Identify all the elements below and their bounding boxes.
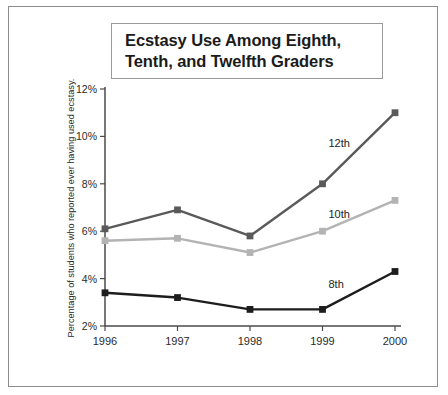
- chart-frame: Ecstasy Use Among Eighth, Tenth, and Twe…: [8, 6, 438, 387]
- x-tick-label: 1999: [310, 335, 334, 347]
- data-point-12th: [247, 233, 254, 240]
- data-point-10th: [102, 237, 109, 244]
- data-point-12th: [392, 109, 399, 116]
- chart-title-box: Ecstasy Use Among Eighth, Tenth, and Twe…: [111, 23, 383, 79]
- data-point-10th: [392, 197, 399, 204]
- x-tick-label: 1998: [238, 335, 262, 347]
- chart-title-line-1: Ecstasy Use Among Eighth,: [125, 30, 341, 51]
- y-tick-label: 10%: [76, 130, 97, 142]
- data-point-8th: [174, 294, 181, 301]
- data-point-10th: [247, 249, 254, 256]
- data-point-10th: [174, 235, 181, 242]
- data-point-8th: [247, 306, 254, 313]
- y-tick-label: 12%: [76, 83, 97, 95]
- chart-title-line-2: Tenth, and Twelfth Graders: [125, 51, 334, 72]
- series-line-10th: [105, 200, 395, 252]
- data-point-12th: [319, 180, 326, 187]
- series-line-12th: [105, 113, 395, 236]
- series-label-10th: 10th: [329, 208, 350, 220]
- data-point-8th: [392, 268, 399, 275]
- chart-plot-area: 2%4%6%8%10%12%1996199719981999200012th10…: [71, 77, 411, 362]
- y-tick-label: 2%: [82, 320, 97, 332]
- series-label-8th: 8th: [329, 278, 344, 290]
- series-line-8th: [105, 271, 395, 309]
- series-label-12th: 12th: [329, 137, 350, 149]
- y-tick-label: 8%: [82, 178, 97, 190]
- data-point-12th: [174, 206, 181, 213]
- y-tick-label: 4%: [82, 273, 97, 285]
- x-tick-label: 1996: [93, 335, 117, 347]
- x-tick-label: 1997: [165, 335, 189, 347]
- line-chart: 2%4%6%8%10%12%1996199719981999200012th10…: [71, 77, 411, 362]
- y-tick-label: 6%: [82, 225, 97, 237]
- data-point-8th: [319, 306, 326, 313]
- x-tick-label: 2000: [383, 335, 407, 347]
- data-point-8th: [102, 289, 109, 296]
- data-point-10th: [319, 228, 326, 235]
- data-point-12th: [102, 225, 109, 232]
